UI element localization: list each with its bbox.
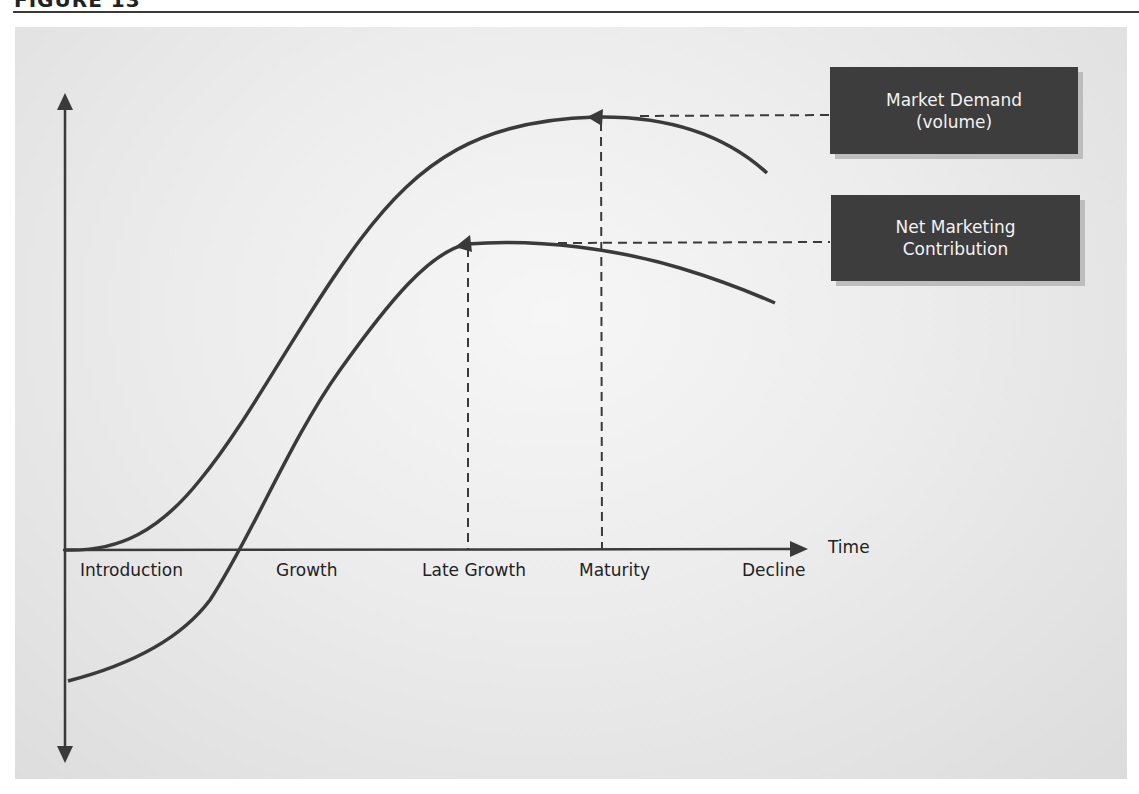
market-demand-label-line1: Market Demand <box>886 89 1022 111</box>
market-demand-label-line2: (volume) <box>886 111 1022 133</box>
net-marketing-label-line2: Contribution <box>896 238 1016 260</box>
stage-label-maturity: Maturity <box>579 560 650 580</box>
x-axis-arrow-icon <box>790 541 808 557</box>
maturity-dashed-vertical <box>601 122 602 550</box>
net-marketing-contribution-label-box: Net Marketing Contribution <box>831 195 1080 281</box>
stage-label-decline: Decline <box>742 560 806 580</box>
stage-label-late-growth: Late Growth <box>422 560 526 580</box>
net-marketing-label-line1: Net Marketing <box>896 216 1016 238</box>
stage-label-growth: Growth <box>276 560 338 580</box>
net-marketing-dashed-leader <box>558 242 830 243</box>
market-demand-dashed-leader <box>640 115 830 116</box>
y-axis-up-arrow-icon <box>57 93 73 110</box>
market-demand-peak-arrow-icon <box>587 109 603 126</box>
y-axis-down-arrow-icon <box>57 746 73 763</box>
stage-label-introduction: Introduction <box>80 560 183 580</box>
dashed-guides <box>468 115 830 550</box>
market-demand-label-box: Market Demand (volume) <box>830 67 1078 154</box>
y-axis <box>57 93 73 763</box>
net-marketing-contribution-curve <box>68 242 775 681</box>
x-axis-label-time: Time <box>828 537 870 557</box>
net-marketing-peak-arrow-icon <box>455 235 472 252</box>
x-axis <box>63 541 808 557</box>
market-demand-curve <box>65 117 767 550</box>
